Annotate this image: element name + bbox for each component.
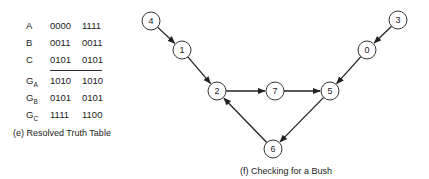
edge-6-to-2: [224, 98, 267, 142]
node-5: 5: [321, 82, 339, 100]
svg-text:5: 5: [327, 86, 332, 96]
edge-4-to-1: [158, 27, 175, 43]
edge-0-to-5: [337, 57, 361, 84]
node-3: 3: [389, 11, 407, 29]
bush-graph: 41275036: [0, 0, 429, 179]
node-7: 7: [266, 82, 284, 100]
node-4: 4: [142, 12, 160, 30]
svg-text:3: 3: [395, 15, 400, 25]
svg-text:1: 1: [179, 45, 184, 55]
graph-nodes: 41275036: [142, 11, 407, 158]
edge-3-to-0: [374, 26, 391, 43]
svg-text:6: 6: [270, 144, 275, 154]
node-0: 0: [358, 41, 376, 59]
node-1: 1: [173, 41, 191, 59]
edge-5-to-6: [280, 97, 324, 141]
svg-text:2: 2: [214, 86, 219, 96]
edge-1-to-2: [188, 57, 211, 84]
graph-caption: (f) Checking for a Bush: [240, 166, 332, 176]
node-6: 6: [264, 140, 282, 158]
node-2: 2: [208, 82, 226, 100]
svg-text:7: 7: [272, 86, 277, 96]
svg-text:0: 0: [364, 45, 369, 55]
svg-text:4: 4: [148, 16, 153, 26]
